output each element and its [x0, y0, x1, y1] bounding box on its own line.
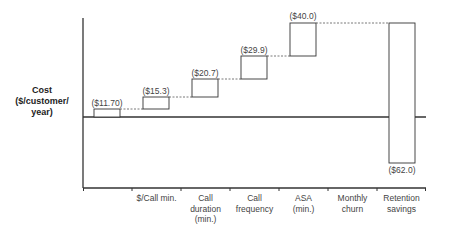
- x-tick-label-line: (min.): [279, 204, 328, 215]
- step-box-1: [94, 109, 120, 117]
- x-tick-label-line: duration: [181, 204, 230, 215]
- step-box-4: [241, 56, 267, 79]
- x-tick-label-line: Monthly: [328, 193, 377, 204]
- x-tick-label: ASA (min.): [279, 193, 328, 214]
- y-axis-label-line: year): [6, 107, 78, 118]
- step-box-3: [192, 79, 218, 97]
- value-label: ($62.0): [377, 165, 427, 175]
- x-tick-label: Retention savings: [377, 193, 426, 214]
- value-label: ($40.0): [278, 11, 328, 21]
- value-label: ($29.9): [229, 45, 279, 55]
- y-axis-label: Cost ($/customer/ year): [6, 85, 78, 118]
- step-box-2: [143, 97, 169, 109]
- x-tick-label-line: $/Call min.: [132, 193, 181, 204]
- x-tick-label: Call duration (min.): [181, 193, 230, 225]
- value-label: ($15.3): [131, 86, 181, 96]
- x-tick-label-line: Retention: [377, 193, 426, 204]
- y-axis-label-line: Cost: [6, 85, 78, 96]
- y-axis-label-line: ($/customer/: [6, 96, 78, 107]
- value-label: ($20.7): [180, 68, 230, 78]
- x-tick-label-line: ASA: [279, 193, 328, 204]
- waterfall-chart: Cost ($/customer/ year) ($11.70) ($15.3)…: [0, 0, 449, 236]
- x-tick-label-line: savings: [377, 204, 426, 215]
- x-tick-label: Monthly churn: [328, 193, 377, 214]
- x-tick-label-line: frequency: [230, 204, 279, 215]
- retention-savings-box: [389, 23, 415, 163]
- x-tick-label-line: (min.): [181, 214, 230, 225]
- x-tick-label: Call frequency: [230, 193, 279, 214]
- x-tick-label-line: Call: [230, 193, 279, 204]
- value-label: ($11.70): [82, 98, 132, 108]
- x-tick-label: $/Call min.: [132, 193, 181, 204]
- x-tick-label-line: Call: [181, 193, 230, 204]
- x-tick-label-line: churn: [328, 204, 377, 215]
- step-box-5: [290, 23, 316, 56]
